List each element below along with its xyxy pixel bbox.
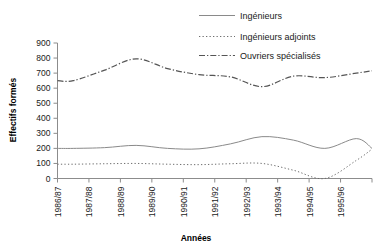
y-axis-ticks: 0100200300400500600700800900 xyxy=(36,38,57,184)
x-tick-label: 1986/87 xyxy=(53,186,63,217)
x-tick-label: 1992/93 xyxy=(242,186,252,217)
legend-label-2: Ouvriers spécialisés xyxy=(240,51,321,61)
y-tick-label: 100 xyxy=(36,158,50,168)
y-tick-label: 600 xyxy=(36,83,50,93)
y-tick-label: 500 xyxy=(36,98,50,108)
legend-label-1: Ingénieurs adjoints xyxy=(240,32,316,42)
chart-container: Ingénieurs Ingénieurs adjoints Ouvriers … xyxy=(0,0,379,247)
y-tick-label: 900 xyxy=(36,38,50,48)
legend-label-0: Ingénieurs xyxy=(240,11,283,21)
x-tick-label: 1994/95 xyxy=(305,186,315,217)
legend-item-ingenieurs-adjoints[interactable]: Ingénieurs adjoints xyxy=(199,32,316,42)
y-tick-label: 700 xyxy=(36,68,50,78)
legend-item-ingenieurs[interactable]: Ingénieurs xyxy=(199,11,283,21)
y-tick-label: 800 xyxy=(36,53,50,63)
x-tick-label: 1989/90 xyxy=(147,186,157,217)
series-line-0 xyxy=(58,137,373,150)
x-axis-title: Années xyxy=(181,233,212,243)
x-tick-label: 1990/91 xyxy=(179,186,189,217)
legend-item-ouvriers-specialises[interactable]: Ouvriers spécialisés xyxy=(199,51,321,61)
x-tick-label: 1993/94 xyxy=(273,186,283,217)
chart-series-group xyxy=(58,59,373,179)
series-line-2 xyxy=(58,59,373,87)
y-tick-label: 200 xyxy=(36,143,50,153)
x-tick-label: 1988/89 xyxy=(116,186,126,217)
series-line-1 xyxy=(58,149,373,179)
x-axis-ticks: 1986/871987/881988/891989/901990/911991/… xyxy=(53,179,372,218)
x-tick-label: 1991/92 xyxy=(210,186,220,217)
y-tick-label: 400 xyxy=(36,113,50,123)
x-tick-label: 1995/96 xyxy=(336,186,346,217)
x-tick-label: 1987/88 xyxy=(84,186,94,217)
line-chart-svg: Ingénieurs Ingénieurs adjoints Ouvriers … xyxy=(0,0,379,247)
chart-legend: Ingénieurs Ingénieurs adjoints Ouvriers … xyxy=(199,11,321,61)
y-tick-label: 300 xyxy=(36,128,50,138)
y-tick-label: 0 xyxy=(46,174,51,184)
y-axis-title: Effectifs formés xyxy=(8,78,18,143)
